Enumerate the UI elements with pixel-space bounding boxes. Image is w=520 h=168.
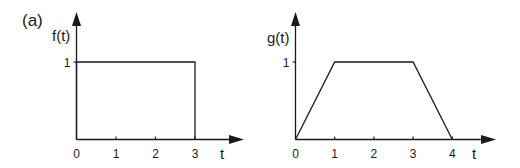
panel-label: (a) [22,11,43,30]
x-axis-arrow-icon [229,135,244,144]
x-tick-label: 0 [292,147,299,161]
x-tick-label: 0 [73,147,80,161]
y-tick-label: 1 [283,56,290,70]
x-tick-label: 3 [192,147,199,161]
plot-f: f(t)t01231 [52,12,244,162]
series-line-ft [77,62,196,140]
x-tick-label: 2 [371,147,378,161]
y-axis-label: f(t) [52,27,70,44]
y-tick-label: 1 [64,56,71,70]
y-axis-arrow-icon [291,12,300,26]
x-axis-arrow-icon [481,135,496,144]
x-tick-label: 3 [410,147,417,161]
series-line-gt [296,62,453,140]
x-axis-label: t [472,145,477,162]
figure: (a) f(t)t01231 g(t)t012341 [0,0,520,168]
x-axis-label: t [220,145,225,162]
x-tick-label: 2 [152,147,159,161]
y-axis-arrow-icon [72,12,81,26]
y-axis-label: g(t) [267,29,290,46]
x-tick-label: 1 [113,147,120,161]
plot-g: g(t)t012341 [267,12,496,162]
x-tick-label: 1 [331,147,338,161]
x-tick-label: 4 [449,147,456,161]
